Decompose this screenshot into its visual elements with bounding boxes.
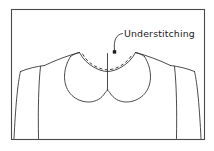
understitching-diagram: Understitching <box>0 0 214 151</box>
annotation-arrow-tip <box>113 50 116 53</box>
understitching-label: Understitching <box>124 28 195 39</box>
illustration-root: Understitching <box>0 0 214 151</box>
